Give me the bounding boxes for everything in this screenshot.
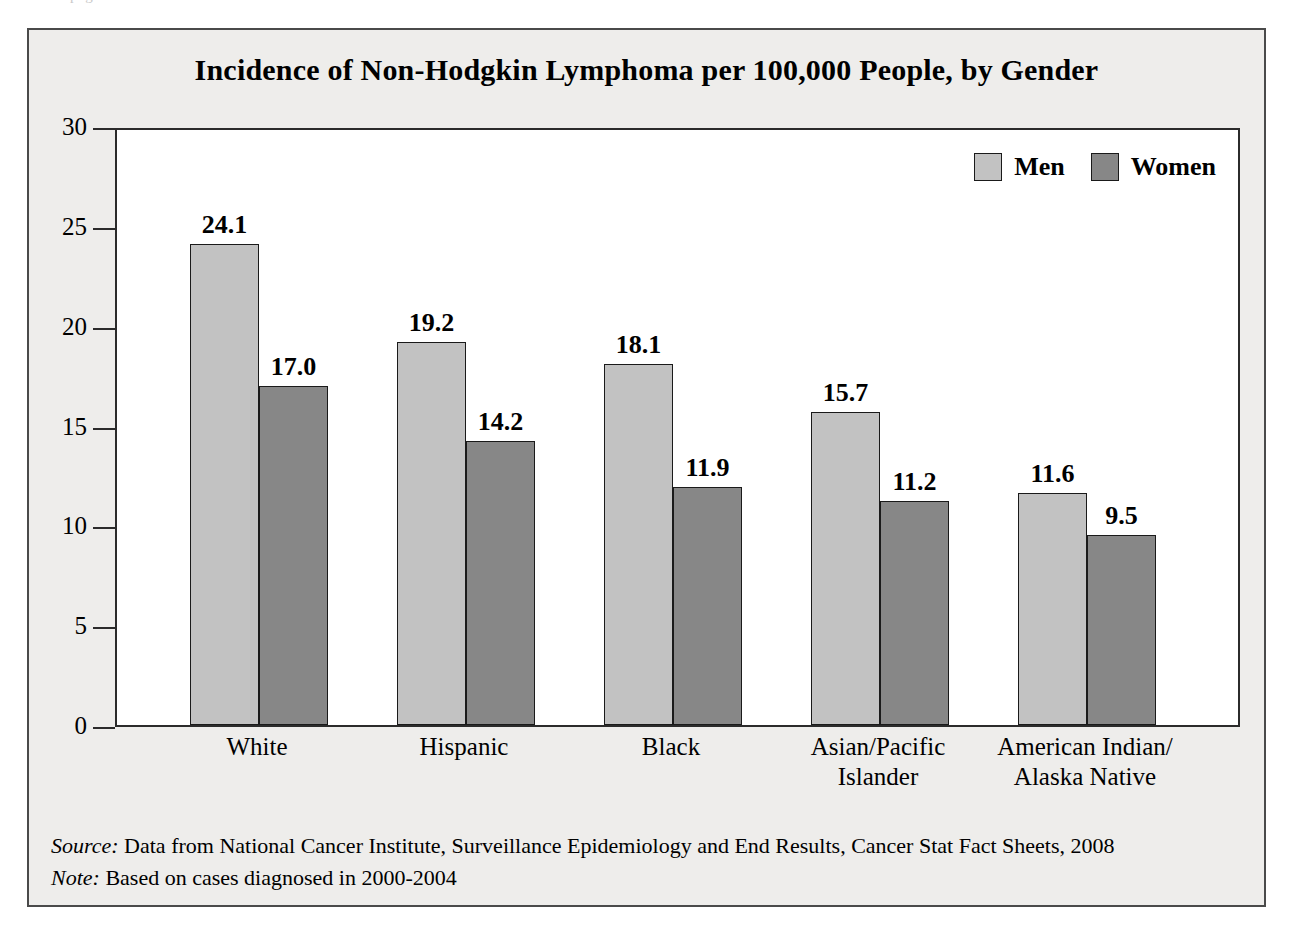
x-axis-category-label: American Indian/Alaska Native <box>955 732 1215 792</box>
y-axis-tick <box>93 128 115 130</box>
footnote-text: Data from National Cancer Institute, Sur… <box>124 833 1114 858</box>
footnote-line: Source: Data from National Cancer Instit… <box>51 830 1231 862</box>
y-axis-tick-label: 10 <box>37 512 87 540</box>
y-axis-tick-label: 20 <box>37 313 87 341</box>
bar-group: 11.69.5 <box>1018 130 1156 725</box>
bars-layer: 24.117.019.214.218.111.915.711.211.69.5 <box>117 130 1238 725</box>
bar-value-label: 19.2 <box>372 308 492 338</box>
chart-legend: MenWomen <box>974 152 1216 182</box>
bar-men[interactable] <box>604 364 673 725</box>
footnotes: Source: Data from National Cancer Instit… <box>51 830 1231 894</box>
bar-men[interactable] <box>397 342 466 725</box>
y-axis-tick-label: 0 <box>37 712 87 740</box>
bar-value-label: 14.2 <box>441 407 561 437</box>
y-axis-tick <box>93 428 115 430</box>
bar-group: 15.711.2 <box>811 130 949 725</box>
legend-label: Men <box>1014 152 1065 182</box>
bar-women[interactable] <box>259 386 328 725</box>
bar-group: 18.111.9 <box>604 130 742 725</box>
bar-women[interactable] <box>1087 535 1156 725</box>
bar-value-label: 11.9 <box>648 453 768 483</box>
legend-label: Women <box>1131 152 1216 182</box>
y-axis-tick-label: 25 <box>37 213 87 241</box>
y-axis-tick <box>93 527 115 529</box>
bar-group: 24.117.0 <box>190 130 328 725</box>
bar-value-label: 18.1 <box>579 330 699 360</box>
bar-value-label: 11.6 <box>993 459 1113 489</box>
y-axis-tick-label: 15 <box>37 413 87 441</box>
x-axis-category-label-line: American Indian/ <box>955 732 1215 762</box>
bar-men[interactable] <box>811 412 880 725</box>
x-axis-category-label-line: Alaska Native <box>955 762 1215 792</box>
y-axis-tick-label: 30 <box>37 113 87 141</box>
y-axis-tick <box>93 727 115 729</box>
top-crop-artifact: page-header remnant <box>0 0 1293 20</box>
bar-value-label: 17.0 <box>234 352 354 382</box>
legend-swatch-icon <box>1091 153 1119 181</box>
y-axis-tick <box>93 228 115 230</box>
top-crop-artifact-text: page-header remnant <box>70 0 208 4</box>
footnote-lead: Source: <box>51 833 124 858</box>
bar-value-label: 15.7 <box>786 378 906 408</box>
bar-value-label: 9.5 <box>1062 501 1182 531</box>
bar-group: 19.214.2 <box>397 130 535 725</box>
legend-item-women[interactable]: Women <box>1091 152 1216 182</box>
legend-item-men[interactable]: Men <box>974 152 1065 182</box>
bar-women[interactable] <box>880 501 949 725</box>
figure-panel: Incidence of Non-Hodgkin Lymphoma per 10… <box>27 28 1266 907</box>
y-axis-tick <box>93 328 115 330</box>
bar-women[interactable] <box>673 487 742 725</box>
footnote-lead: Note: <box>51 865 105 890</box>
x-axis-labels: WhiteHispanicBlackAsian/PacificIslanderA… <box>115 732 1240 804</box>
bar-men[interactable] <box>190 244 259 725</box>
bar-value-label: 11.2 <box>855 467 975 497</box>
bar-women[interactable] <box>466 441 535 725</box>
plot-area: 24.117.019.214.218.111.915.711.211.69.5 … <box>115 128 1240 727</box>
y-axis-tick-label: 5 <box>37 612 87 640</box>
footnote-line: Note: Based on cases diagnosed in 2000-2… <box>51 862 1231 894</box>
footnote-text: Based on cases diagnosed in 2000-2004 <box>105 865 456 890</box>
y-axis-tick <box>93 627 115 629</box>
chart-title: Incidence of Non-Hodgkin Lymphoma per 10… <box>29 53 1264 87</box>
bar-value-label: 24.1 <box>165 210 285 240</box>
legend-swatch-icon <box>974 153 1002 181</box>
